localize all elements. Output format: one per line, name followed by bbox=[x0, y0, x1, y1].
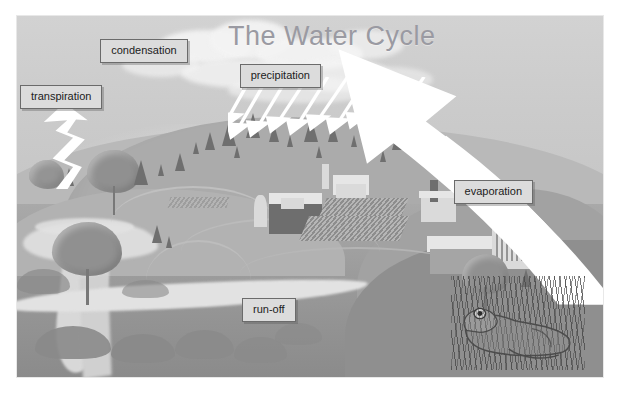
label-precipitation: precipitation bbox=[240, 64, 321, 88]
page-title: The Water Cycle bbox=[228, 21, 436, 52]
rain-streaks bbox=[228, 77, 427, 160]
label-condensation: condensation bbox=[100, 39, 187, 63]
evaporation-arrow bbox=[304, 23, 603, 305]
water-cycle-figure: The Water Cycle condensation transpirati… bbox=[0, 0, 621, 400]
illustration-plate: The Water Cycle condensation transpirati… bbox=[17, 16, 603, 377]
transpiration-arrow bbox=[35, 103, 94, 190]
label-transpiration: transpiration bbox=[20, 85, 103, 109]
label-run-off: run-off bbox=[242, 298, 296, 322]
label-evaporation: evaporation bbox=[454, 180, 534, 204]
frog-in-reeds bbox=[451, 276, 586, 370]
